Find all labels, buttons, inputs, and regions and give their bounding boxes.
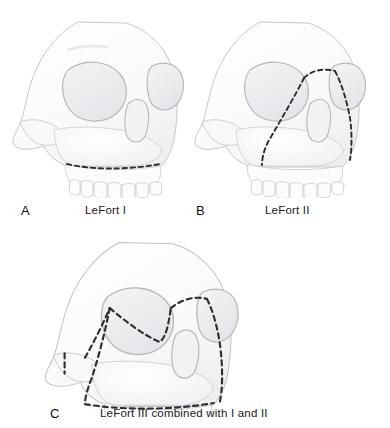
orbit-socket xyxy=(101,288,173,355)
nasal-aperture xyxy=(172,330,199,378)
skull-illustration-b xyxy=(195,22,366,198)
panel-letter-c: C xyxy=(50,406,60,421)
panel-caption-b: LeFort II xyxy=(265,204,310,216)
contralateral-orbit xyxy=(147,63,184,110)
panel-lefort-iii xyxy=(20,238,340,416)
orbit-socket xyxy=(63,62,127,121)
nasal-aperture xyxy=(125,100,149,143)
orbit-socket xyxy=(245,62,309,121)
figure-root: A LeFort I B LeFort II C LeFort III comb… xyxy=(0,0,390,428)
panel-caption-c: LeFort III combined with I and II xyxy=(100,407,268,419)
skull-illustration-c xyxy=(45,243,238,416)
panel-letter-a: A xyxy=(21,203,30,218)
panel-letter-b: B xyxy=(196,203,205,218)
nasal-aperture xyxy=(307,100,331,143)
panel-caption-a: LeFort I xyxy=(85,204,126,216)
panel-lefort-i xyxy=(10,18,200,198)
skull-illustration-a xyxy=(13,22,184,198)
panel-lefort-ii xyxy=(192,18,382,198)
